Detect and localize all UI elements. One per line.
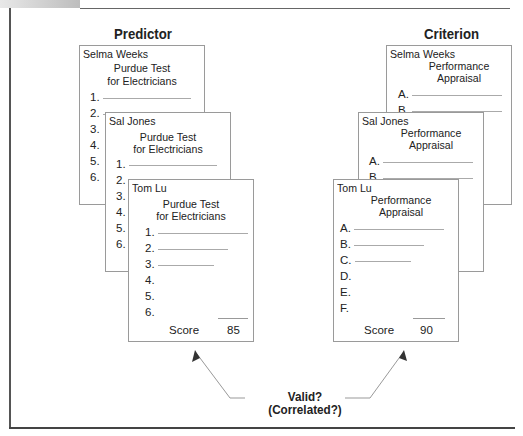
validity-question: Valid? (Correlated?): [256, 390, 355, 416]
right-arrowhead-icon: [399, 350, 407, 361]
left-arrow-line: [197, 354, 245, 398]
validity-question-line2: (Correlated?): [256, 403, 355, 416]
correlation-arrows: [0, 0, 523, 436]
